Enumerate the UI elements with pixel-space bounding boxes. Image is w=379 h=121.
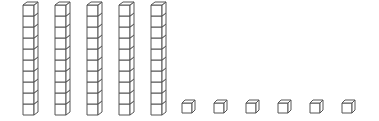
unit-cube-icon — [310, 100, 323, 113]
unit-cube-icon — [246, 100, 259, 113]
blocks-canvas — [0, 0, 379, 121]
unit-cube-icon — [182, 100, 195, 113]
ten-rod-icon — [55, 2, 70, 115]
ten-rod-icon — [151, 2, 166, 115]
ten-rod-icon — [87, 2, 102, 115]
ten-rod-icon — [119, 2, 134, 115]
unit-cube-icon — [214, 100, 227, 113]
unit-cube-icon — [342, 100, 355, 113]
ten-rod-icon — [23, 2, 38, 115]
unit-cube-icon — [278, 100, 291, 113]
base-ten-blocks-diagram — [0, 0, 379, 121]
